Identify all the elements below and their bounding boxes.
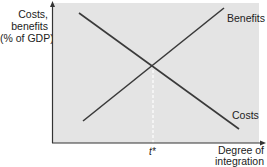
benefits-label: Benefits	[227, 12, 265, 24]
chart-canvas	[0, 0, 267, 167]
x-axis-label-line-2: integration	[215, 156, 264, 167]
x-axis-label: Degree of integration	[215, 145, 264, 167]
costs-label: Costs	[232, 109, 259, 121]
tstar-tick-label: t*	[149, 146, 156, 157]
